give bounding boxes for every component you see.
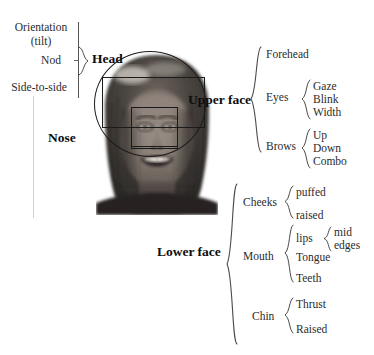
- head-item-nod: Nod: [28, 54, 74, 67]
- mouth-brace: [283, 224, 295, 284]
- eyes-option-width: Width: [313, 106, 341, 119]
- eyes-brace: [300, 79, 312, 121]
- lower-face-child-cheeks: Cheeks: [243, 196, 277, 209]
- mouth-roi-box: [131, 127, 178, 149]
- cheeks-option-raised: raised: [296, 209, 323, 222]
- upper-face-child-eyes: Eyes: [266, 91, 288, 104]
- mouth-option-teeth: Teeth: [296, 272, 321, 285]
- eyes-option-gaze: Gaze: [313, 80, 337, 93]
- head-item-tilt: (tilt): [8, 35, 74, 48]
- lips-option-edges: edges: [334, 239, 360, 252]
- mouth-option-lips: lips: [296, 232, 313, 245]
- brows-brace: [300, 128, 312, 170]
- figure-root: Orientation (tilt) Nod Side-to-side Head…: [0, 0, 374, 355]
- upper-face-label: Upper face: [188, 93, 251, 106]
- chin-option-thrust: Thrust: [296, 298, 326, 311]
- brows-option-up: Up: [313, 129, 327, 142]
- upper-face-child-brows: Brows: [266, 140, 296, 153]
- face-photograph: [96, 53, 218, 215]
- chin-option-raised: Raised: [296, 323, 327, 336]
- lower-face-child-chin: Chin: [252, 310, 274, 323]
- nose-group-label: Nose: [48, 131, 76, 144]
- eyes-option-blink: Blink: [313, 93, 339, 106]
- lower-face-child-mouth: Mouth: [243, 250, 274, 263]
- chin-brace: [283, 297, 295, 335]
- head-guide-line: [33, 96, 34, 218]
- head-brace-tip: [78, 46, 90, 76]
- lower-face-label: Lower face: [157, 245, 221, 258]
- mouth-option-tongue: Tongue: [296, 251, 330, 264]
- lower-face-brace: [224, 183, 240, 346]
- upper-face-brace: [248, 46, 264, 154]
- cheeks-brace: [283, 185, 295, 220]
- head-item-side-to-side: Side-to-side: [2, 81, 76, 94]
- brows-option-combo: Combo: [313, 155, 347, 168]
- upper-face-child-forehead: Forehead: [266, 48, 309, 61]
- head-group-label: Head: [92, 52, 123, 65]
- lips-brace: [322, 226, 333, 253]
- cheeks-option-puffed: puffed: [296, 186, 326, 199]
- head-item-orientation: Orientation: [8, 21, 74, 34]
- lips-option-mid: mid: [334, 226, 352, 239]
- brows-option-down: Down: [313, 142, 341, 155]
